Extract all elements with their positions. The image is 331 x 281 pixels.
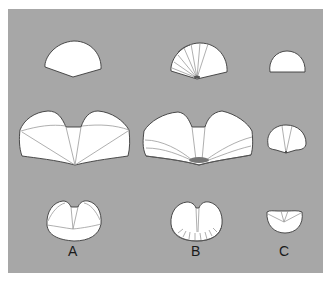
column-label-a: A	[68, 243, 77, 259]
shape-c2	[268, 125, 306, 153]
diagram-svg	[0, 0, 331, 281]
shape-b2	[143, 111, 253, 165]
shape-c1	[270, 51, 305, 72]
shape-a1	[45, 41, 101, 77]
shape-a3	[47, 201, 101, 241]
shape-c3	[267, 211, 302, 233]
column-label-b: B	[191, 243, 200, 259]
shape-a2	[19, 111, 129, 165]
shape-b3	[171, 202, 222, 241]
column-label-c: C	[279, 243, 289, 259]
shape-b1	[171, 43, 227, 79]
